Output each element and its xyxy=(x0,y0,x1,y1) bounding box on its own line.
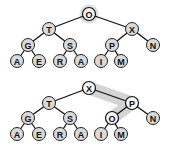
tree-node: T xyxy=(43,97,56,110)
node-label: N xyxy=(150,114,157,124)
node-label: M xyxy=(117,130,125,140)
tree-node: O xyxy=(83,8,96,21)
node-label: T xyxy=(46,99,52,109)
node-label: A xyxy=(14,57,21,67)
tree-node: I xyxy=(95,128,108,141)
tree-node: G xyxy=(22,112,35,125)
tree-node: T xyxy=(43,23,56,36)
node-label: M xyxy=(117,57,125,67)
tree-node: P xyxy=(126,97,139,110)
node-label: P xyxy=(129,99,135,109)
node-label: T xyxy=(46,25,52,35)
tree-node: S xyxy=(64,39,77,52)
tree-node: G xyxy=(22,39,35,52)
tree-node: A xyxy=(11,128,24,141)
node-label: O xyxy=(108,114,115,124)
tree-node: A xyxy=(11,55,24,68)
tree-node: X xyxy=(83,82,96,95)
node-label: X xyxy=(86,84,92,94)
node-label: I xyxy=(100,130,103,140)
tree-node: S xyxy=(64,112,77,125)
node-label: R xyxy=(57,57,64,67)
tree-node: R xyxy=(54,55,67,68)
tree-node: I xyxy=(95,55,108,68)
node-label: S xyxy=(67,114,73,124)
tree-node: A xyxy=(75,128,88,141)
node-label: E xyxy=(36,57,42,67)
tree-node: N xyxy=(147,112,160,125)
node-label: P xyxy=(109,41,115,51)
node-label: E xyxy=(36,130,42,140)
nodes-layer: OTXGSPNAERAIMXTPGSONAERAIM xyxy=(11,8,160,141)
node-label: A xyxy=(14,130,21,140)
node-label: A xyxy=(78,57,85,67)
tree-node: A xyxy=(75,55,88,68)
node-label: N xyxy=(150,41,157,51)
node-label: G xyxy=(24,114,31,124)
heap-diagram: OTXGSPNAERAIMXTPGSONAERAIM xyxy=(0,0,169,151)
node-label: I xyxy=(100,57,103,67)
node-label: O xyxy=(85,10,92,20)
node-label: X xyxy=(129,25,135,35)
tree-node: E xyxy=(33,55,46,68)
node-label: S xyxy=(67,41,73,51)
tree-node: M xyxy=(115,55,128,68)
tree-node: X xyxy=(126,23,139,36)
tree-node: O xyxy=(106,112,119,125)
node-label: R xyxy=(57,130,64,140)
node-label: G xyxy=(24,41,31,51)
tree-node: R xyxy=(54,128,67,141)
tree-node: P xyxy=(106,39,119,52)
tree-node: E xyxy=(33,128,46,141)
tree-node: N xyxy=(147,39,160,52)
tree-node: M xyxy=(115,128,128,141)
node-label: A xyxy=(78,130,85,140)
